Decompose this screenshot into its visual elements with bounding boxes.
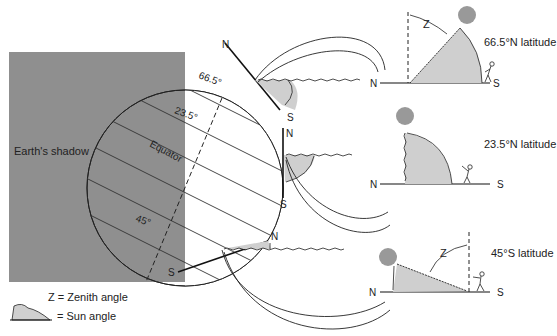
tangent-66-s: S [287, 112, 294, 123]
sun-icon [458, 6, 476, 24]
panel2-latitude: 23.5°N latitude [484, 138, 556, 150]
earth-lit-half [185, 90, 283, 286]
person-icon [473, 272, 484, 291]
panel3-n: N [369, 287, 376, 298]
panel1-latitude: 66.5°N latitude [484, 36, 556, 48]
tangent-66-n: N [222, 39, 229, 50]
panel2-s: S [497, 179, 504, 190]
tangent-45-s: S [168, 267, 175, 278]
earth-shadow-label: Earth's shadow [14, 145, 89, 157]
person-icon [462, 165, 472, 183]
legend-zenith: Z = Zenith angle [48, 291, 128, 303]
tangent-66 [225, 43, 280, 110]
panel-45-south: N S Z 45°S latitude [369, 232, 554, 298]
panel2-n: N [370, 179, 377, 190]
earth-shadow-lower [9, 52, 185, 282]
panel3-z: Z [440, 247, 447, 259]
sun-icon [396, 107, 414, 125]
legend-sun-angle: = Sun angle [57, 310, 116, 322]
panel-66-5-north: N S Z 66.5°N latitude [370, 6, 556, 89]
tangent-23-n: N [286, 128, 293, 139]
legend-sun-angle-icon [10, 304, 52, 320]
panel1-s: S [493, 78, 500, 89]
sun-angle-diagram: 66.5° 23.5° Equator 45° Earth's shadow N… [0, 0, 557, 336]
panel3-s: S [497, 287, 504, 298]
panel1-n: N [370, 78, 377, 89]
label-66-5: 66.5° [197, 70, 223, 88]
panel3-latitude: 45°S latitude [491, 247, 554, 259]
tangent-45-n: N [271, 231, 278, 242]
panel1-z: Z [423, 18, 430, 30]
panel-23-5-north: N S 23.5°N latitude [370, 107, 556, 190]
tangent-23-s: S [280, 199, 287, 210]
sun-icon [379, 248, 397, 266]
